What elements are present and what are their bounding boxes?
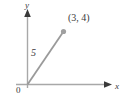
y-axis-label: y	[25, 1, 29, 10]
segment-length-label: 5	[31, 48, 36, 58]
radius-segment	[28, 32, 64, 85]
x-axis-arrowhead	[104, 81, 112, 88]
y-axis-arrowhead	[24, 9, 31, 17]
point-coordinates-label: (3, 4)	[68, 13, 90, 23]
coordinate-plane-figure: y x 0 5 (3, 4)	[0, 0, 126, 102]
point-marker	[61, 29, 66, 34]
origin-label: 0	[16, 86, 21, 95]
x-axis-label: x	[115, 82, 119, 91]
